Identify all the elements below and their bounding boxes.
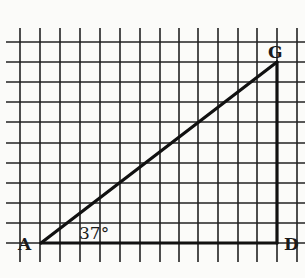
angle-label: 37°: [79, 223, 109, 243]
vertex-g-label: G: [268, 42, 283, 62]
grid: [6, 28, 305, 262]
hypotenuse-ag: [41, 62, 277, 243]
triangle: [41, 62, 277, 243]
vertex-a-label: A: [17, 234, 32, 254]
triangle-diagram: A G D 37°: [0, 0, 305, 278]
vertex-d-label: D: [284, 234, 299, 254]
